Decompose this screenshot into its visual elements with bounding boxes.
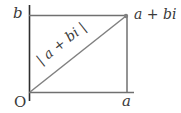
imag-part-label: b — [13, 4, 23, 22]
point-label: a + bi — [134, 6, 176, 22]
real-part-label: a — [122, 92, 131, 110]
point-marker — [124, 14, 128, 18]
modulus-label: | a + bi | — [33, 19, 89, 68]
complex-plane-diagram: b a + bi O a | a + bi | — [0, 0, 181, 113]
origin-label: O — [14, 93, 26, 111]
